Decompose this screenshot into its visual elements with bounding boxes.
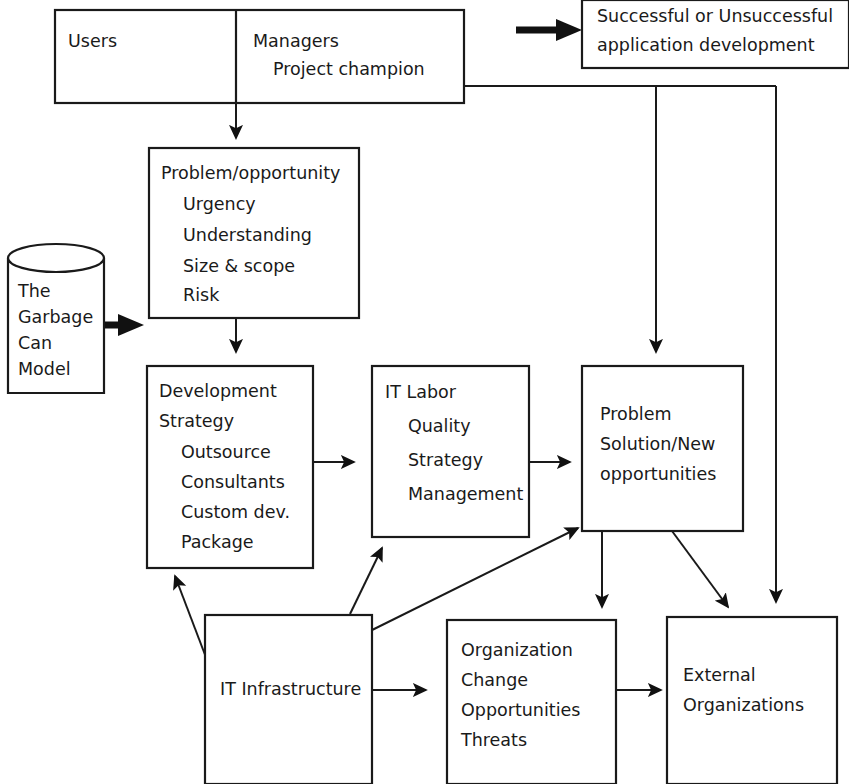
node-development-heading2: Strategy — [159, 411, 234, 431]
node-problem-item-1: Understanding — [183, 225, 312, 245]
node-development-item-0: Outsource — [181, 442, 271, 462]
node-problem-heading: Problem/opportunity — [161, 163, 340, 183]
node-development-item-3: Package — [181, 532, 254, 552]
diagram-canvas: Users Managers Project champion Successf… — [0, 0, 849, 784]
node-problem-item-0: Urgency — [183, 194, 256, 214]
node-outcome[interactable]: Successful or Unsuccessful application d… — [582, 0, 849, 68]
node-development-heading1: Development — [159, 381, 277, 401]
connector-garbage-can-to-development — [104, 314, 144, 336]
node-problem-opportunity[interactable]: Problem/opportunity Urgency Understandin… — [149, 148, 359, 318]
node-users-label: Users — [68, 31, 117, 51]
node-development-item-2: Custom dev. — [181, 502, 290, 522]
node-external-line-1: Organizations — [683, 695, 804, 715]
node-development-strategy[interactable]: Development Strategy Outsource Consultan… — [147, 366, 313, 568]
node-organization[interactable]: Organization Change Opportunities Threat… — [447, 620, 616, 784]
node-organization-item-2: Opportunities — [461, 700, 580, 720]
node-problem-item-2: Size & scope — [183, 256, 295, 276]
connector-solution-to-external — [672, 531, 728, 607]
node-development-item-1: Consultants — [181, 472, 285, 492]
node-external-line-0: External — [683, 665, 756, 685]
node-solution-line-1: Solution/New — [600, 434, 715, 454]
connector-managers-to-outcome — [516, 19, 582, 41]
garbage-can-model-diagram: Users Managers Project champion Successf… — [0, 0, 849, 784]
node-garbage-can-line-3: Model — [18, 359, 71, 379]
node-external-organizations[interactable]: External Organizations — [667, 617, 837, 784]
node-itlabor-item-1: Strategy — [408, 450, 483, 470]
node-outcome-line1: Successful or Unsuccessful — [597, 6, 833, 26]
node-problem-item-3: Risk — [183, 285, 220, 305]
node-itlabor-item-0: Quality — [408, 416, 471, 436]
node-itlabor-heading: IT Labor — [385, 382, 457, 402]
node-organization-item-3: Threats — [460, 730, 527, 750]
node-it-infrastructure[interactable]: IT Infrastructure — [205, 615, 372, 784]
node-garbage-can-line-2: Can — [18, 333, 52, 353]
connector-infrastructure-to-itlabor — [350, 548, 382, 614]
node-garbage-can-line-1: Garbage — [18, 307, 93, 327]
node-itlabor-item-2: Management — [408, 484, 523, 504]
connector-infrastructure-to-development — [175, 576, 207, 660]
node-project-champion-label: Project champion — [273, 59, 425, 79]
node-managers-label: Managers — [253, 31, 339, 51]
node-solution-line-2: opportunities — [600, 464, 716, 484]
node-stakeholders[interactable]: Users Managers Project champion — [55, 10, 464, 103]
node-garbage-can-line-0: The — [17, 281, 51, 301]
node-organization-item-0: Organization — [461, 640, 573, 660]
node-it-labor[interactable]: IT Labor Quality Strategy Management — [372, 366, 529, 537]
node-garbage-can-model[interactable]: The Garbage Can Model — [8, 244, 104, 393]
node-infrastructure-label: IT Infrastructure — [220, 679, 361, 699]
node-problem-solution[interactable]: Problem Solution/New opportunities — [582, 366, 743, 531]
node-organization-item-1: Change — [461, 670, 528, 690]
node-outcome-line2: application development — [597, 35, 815, 55]
node-solution-line-0: Problem — [600, 404, 672, 424]
